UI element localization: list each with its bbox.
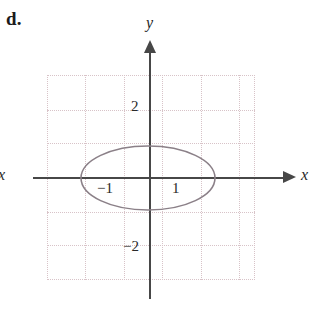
ellipse-curve bbox=[81, 146, 215, 210]
curve-layer bbox=[0, 0, 321, 311]
figure-panel: d. y x x 2 −2 −1 1 bbox=[0, 0, 321, 311]
